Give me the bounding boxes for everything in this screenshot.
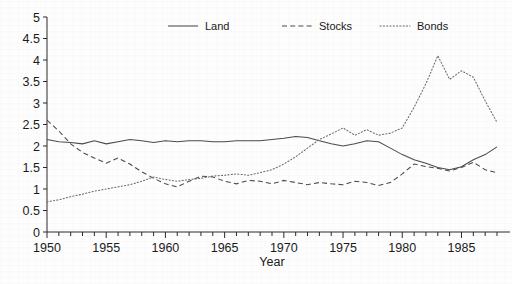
line-chart-plot: 00.511.522.533.544.55 195019551960196519…: [0, 0, 512, 284]
y-axis-tick-label: 4.5: [23, 32, 40, 46]
x-axis-tick-label: 1950: [33, 241, 61, 255]
series-line-bonds: [47, 56, 497, 202]
chart-container: 00.511.522.533.544.55 195019551960196519…: [0, 0, 512, 284]
y-axis-tick-label: 1: [33, 183, 40, 197]
legend-label-bonds: Bonds: [417, 20, 449, 32]
x-axis-tick-label: 1985: [448, 241, 476, 255]
y-axis-tick-label: 3.5: [23, 75, 40, 89]
x-axis-tick-label: 1975: [329, 241, 357, 255]
legend-label-stocks: Stocks: [319, 20, 353, 32]
x-axis-tick-label: 1965: [211, 241, 239, 255]
y-axis-tick-label: 3: [33, 97, 40, 111]
x-axis-tick-label: 1980: [388, 241, 416, 255]
legend-label-land: Land: [205, 20, 229, 32]
series-lines: [47, 56, 497, 202]
x-axis-tick-label: 1960: [152, 241, 180, 255]
series-line-stocks: [47, 120, 497, 187]
y-axis-tick-label: 5: [33, 11, 40, 25]
y-axis-tick-label: 2.5: [23, 118, 40, 132]
y-axis-tick-label: 4: [33, 54, 40, 68]
x-axis-tick-label: 1955: [92, 241, 120, 255]
x-axis-tick-label: 1970: [270, 241, 298, 255]
y-axis-tick-label: 1.5: [23, 161, 40, 175]
x-axis: 19501955196019651970197519801985: [33, 232, 510, 255]
y-axis-tick-label: 0.5: [23, 204, 40, 218]
series-line-land: [47, 137, 497, 170]
chart-legend: LandStocksBonds: [168, 20, 449, 32]
y-axis-tick-label: 2: [33, 140, 40, 154]
x-axis-title: Year: [259, 255, 284, 269]
y-axis: 00.511.522.533.544.55: [23, 11, 47, 240]
y-axis-tick-label: 0: [33, 226, 40, 240]
